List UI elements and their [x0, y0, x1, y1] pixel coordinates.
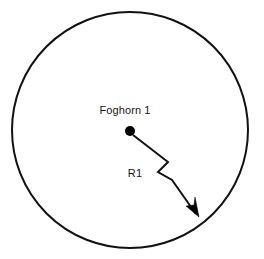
foghorn-source-label: Foghorn 1	[99, 104, 150, 116]
diagram-canvas: Foghorn 1 R1	[0, 0, 264, 259]
radius-label: R1	[128, 167, 142, 179]
radius-leader-line	[133, 135, 196, 214]
arrow-head-icon	[186, 197, 199, 217]
filled-circle-icon	[125, 126, 135, 136]
foghorn-coverage-diagram: Foghorn 1 R1	[0, 0, 264, 259]
